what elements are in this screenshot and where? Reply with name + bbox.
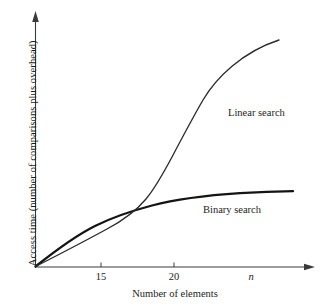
x-tick-label-15: 15 [86,272,116,283]
linear-search-label: Linear search [228,108,285,119]
plot-canvas [0,0,331,307]
x-tick-label-20: 20 [159,272,189,283]
y-axis-label: Access time (number of comparisons plus … [28,28,39,278]
y-axis-arrowhead [32,11,39,22]
chart-figure: Access time (number of comparisons plus … [0,0,331,307]
binary-search-label: Binary search [203,205,261,216]
x-axis-variable-n: n [241,272,261,283]
x-axis-label: Number of elements [95,289,255,300]
linear-search-curve [36,40,280,267]
binary-search-curve [36,191,294,266]
x-axis-arrowhead [304,264,315,271]
